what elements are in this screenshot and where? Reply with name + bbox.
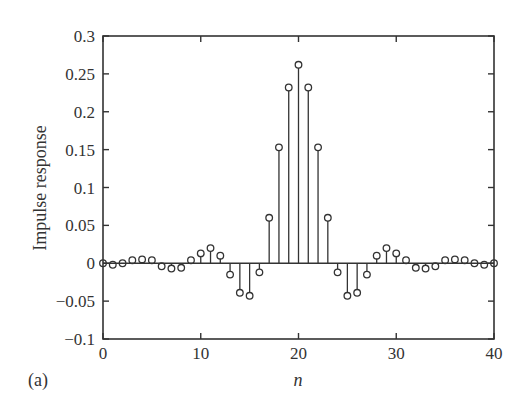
x-tick-label: 10 — [192, 344, 209, 363]
stem-marker — [403, 257, 410, 264]
stem-marker — [139, 256, 146, 263]
x-tick-label: 20 — [290, 344, 307, 363]
stem-marker — [305, 84, 312, 91]
stem-marker — [334, 269, 341, 276]
x-tick-label: 30 — [388, 344, 405, 363]
stem-marker — [442, 257, 449, 264]
stem-marker — [149, 257, 156, 264]
stem-marker — [344, 293, 351, 300]
stem-marker — [413, 264, 420, 271]
stem-marker — [256, 269, 263, 276]
stem-marker — [227, 271, 234, 278]
stem-marker — [373, 252, 380, 259]
panel-label: (a) — [28, 370, 48, 391]
stem-marker — [315, 144, 322, 151]
stem-marker — [393, 250, 400, 257]
impulse-response-chart: −0.1−0.0500.050.10.150.20.250.3010203040… — [0, 0, 531, 420]
stem-marker — [246, 293, 253, 300]
stem-marker — [432, 263, 439, 270]
stem-marker — [197, 250, 204, 257]
y-tick-label: −0.05 — [56, 292, 95, 311]
stem-marker — [295, 61, 302, 68]
stem-marker — [266, 215, 273, 222]
stem-marker — [461, 257, 468, 264]
stem-marker — [178, 264, 185, 271]
stem-marker — [481, 261, 488, 268]
y-tick-label: 0.3 — [74, 27, 95, 46]
stem-marker — [217, 252, 224, 259]
y-tick-label: 0.05 — [65, 216, 95, 235]
stem-marker — [364, 271, 371, 278]
stem-marker — [207, 245, 214, 252]
y-tick-label: 0.25 — [65, 65, 95, 84]
y-tick-label: 0.1 — [74, 179, 95, 198]
x-tick-label: 40 — [486, 344, 503, 363]
stem-marker — [188, 257, 195, 264]
stem-marker — [325, 215, 332, 222]
stem-marker — [354, 289, 361, 296]
stem-marker — [285, 84, 292, 91]
x-axis-label: n — [294, 370, 303, 390]
x-tick-label: 0 — [99, 344, 108, 363]
stem-marker — [276, 144, 283, 151]
stem-marker — [158, 263, 165, 270]
stem-marker — [237, 289, 244, 296]
stem-marker — [452, 256, 459, 263]
y-tick-label: 0.2 — [74, 103, 95, 122]
stem-marker — [422, 265, 429, 272]
y-axis-label: Impulse response — [30, 125, 50, 250]
y-tick-label: −0.1 — [64, 330, 95, 349]
stem-marker — [129, 257, 136, 264]
y-tick-label: 0 — [87, 254, 96, 273]
stem-marker — [109, 261, 116, 268]
stem-marker — [383, 245, 390, 252]
stem-marker — [168, 265, 175, 272]
y-tick-label: 0.15 — [65, 141, 95, 160]
